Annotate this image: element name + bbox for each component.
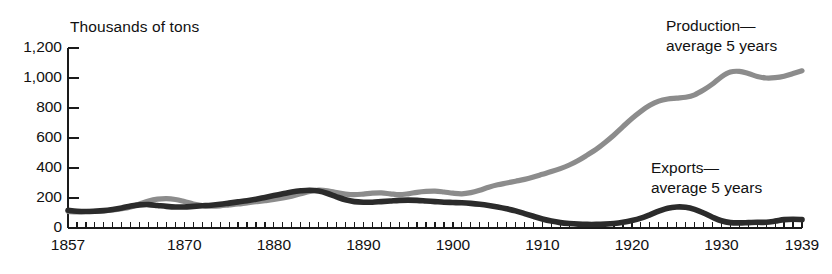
series-line-exports (68, 190, 802, 224)
plot-area (0, 0, 832, 274)
x-axis-ticks (68, 222, 802, 228)
data-series-group (68, 71, 802, 225)
series-line-production (68, 71, 802, 212)
chart-figure: Thousands of tons 02004006008001,0001,20… (0, 0, 832, 274)
y-axis-ticks (68, 48, 79, 228)
